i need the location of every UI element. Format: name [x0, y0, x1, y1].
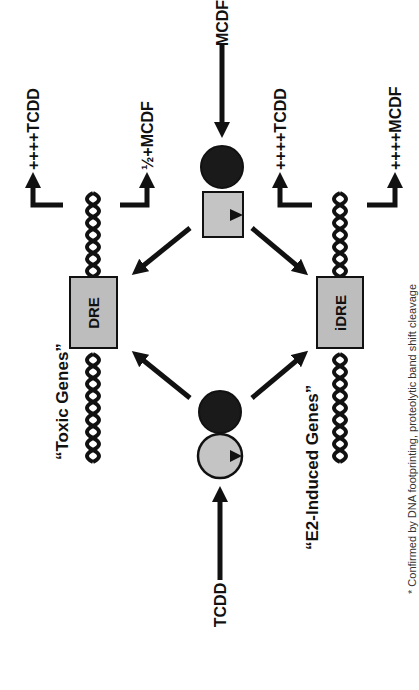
idre-box: iDRE — [317, 277, 363, 348]
ahr-receptor-icon — [201, 146, 243, 188]
tcdd-to-dre-arrow — [138, 356, 190, 398]
idre-tcdd-output-label: ++++TCDD — [272, 88, 289, 170]
diagram-figure: DRE iDRE “Toxic Genes” “E2-Induced Genes… — [0, 0, 419, 690]
idre-mcdf-output-label: ++++MCDF — [387, 86, 404, 170]
dre-label: DRE — [85, 297, 102, 329]
ahr-receptor-icon — [199, 391, 241, 433]
tcdd-input-label: TCDD — [212, 583, 229, 627]
footnote: * Confirmed by DNA footprinting, proteol… — [406, 284, 418, 594]
mcdf-complex — [201, 146, 243, 237]
dre-box: DRE — [70, 277, 117, 348]
dre-mcdf-output-label: ½+MCDF — [139, 101, 156, 170]
idre-label: iDRE — [332, 295, 349, 331]
idre-mcdf-output-arrow — [367, 180, 395, 205]
dre-tcdd-output-label: ++++TCDD — [25, 88, 42, 170]
idre-tcdd-output-arrow — [280, 180, 312, 205]
mcdf-input-label: MCDF — [214, 0, 231, 46]
mcdf-to-idre-arrow — [252, 228, 302, 270]
dre-mcdf-output-arrow — [120, 180, 147, 205]
tcdd-complex — [198, 391, 242, 478]
e2-induced-genes-label: “E2-Induced Genes” — [303, 385, 322, 550]
dre-tcdd-output-arrow — [33, 180, 63, 205]
toxic-genes-label: “Toxic Genes” — [53, 343, 72, 460]
mcdf-to-dre-arrow — [138, 228, 190, 270]
tcdd-to-idre-arrow — [252, 356, 302, 398]
